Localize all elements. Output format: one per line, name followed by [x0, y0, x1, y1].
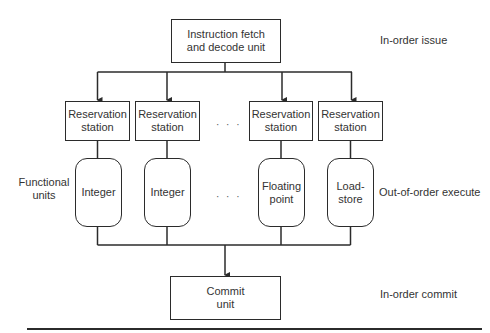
instruction-fetch-decode-label: Instruction fetch and decode unit — [187, 28, 265, 54]
functional-unit-integer-2: Integer — [144, 158, 191, 227]
reservation-station-label: Reservation station — [68, 108, 127, 134]
functional-unit-label: Floating point — [262, 180, 301, 206]
in-order-commit-label: In-order commit — [380, 288, 457, 301]
functional-units-label: Functional units — [16, 176, 72, 202]
functional-unit-floating-point: Floating point — [258, 158, 305, 227]
reservation-station-3: Reservation station — [249, 101, 313, 141]
reservation-station-2: Reservation station — [135, 101, 200, 141]
reservation-station-label: Reservation station — [321, 108, 380, 134]
commit-unit-label: Commit unit — [207, 285, 245, 311]
commit-unit: Commit unit — [170, 276, 281, 320]
instruction-fetch-decode-unit: Instruction fetch and decode unit — [171, 19, 281, 63]
in-order-issue-label: In-order issue — [380, 34, 447, 47]
functional-unit-load-store: Load- store — [327, 158, 374, 227]
bottom-divider — [27, 328, 482, 330]
pipeline-diagram: Instruction fetch and decode unit Reserv… — [0, 0, 490, 333]
functional-unit-label: Integer — [150, 186, 184, 199]
functional-unit-label: Load- store — [336, 180, 364, 206]
ellipsis-functional-units: · · · — [216, 192, 242, 202]
reservation-station-4: Reservation station — [318, 101, 383, 141]
ellipsis-reservation-stations: · · · — [216, 120, 242, 130]
functional-unit-label: Integer — [81, 186, 115, 199]
reservation-station-label: Reservation station — [138, 108, 197, 134]
out-of-order-execute-label: Out-of-order execute — [379, 186, 481, 199]
reservation-station-label: Reservation station — [252, 108, 311, 134]
reservation-station-1: Reservation station — [65, 101, 130, 141]
functional-unit-integer-1: Integer — [75, 158, 122, 227]
